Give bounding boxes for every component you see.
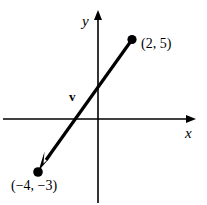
point-dot-tail [127,35,136,44]
vector-v [33,35,136,177]
x-axis [3,115,196,123]
vector-diagram-figure: y x v (2, 5) (−4, −3) [0,0,207,205]
point-label-tail: (2, 5) [141,37,171,51]
point-label-head: (−4, −3) [11,179,57,193]
vector-label-v: v [69,90,76,103]
x-axis-label: x [185,126,192,141]
y-axis [94,10,102,203]
coordinate-plane-svg [0,0,207,205]
point-dot-head [33,167,43,177]
vector-shaft [46,41,131,160]
x-axis-arrowhead-icon [186,115,196,123]
y-axis-label: y [82,14,89,29]
y-axis-arrowhead-icon [94,10,102,20]
